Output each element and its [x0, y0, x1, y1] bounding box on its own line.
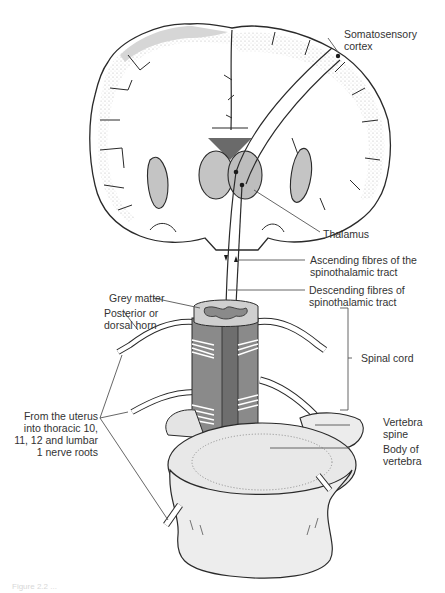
label-body-of-vertebra: Body of vertebra [383, 443, 422, 467]
vertebra-icon [166, 410, 363, 578]
label-ascending-fibres: Ascending fibres of the spinothalamic tr… [310, 254, 417, 278]
label-vertebra-spine: Vertebra spine [383, 416, 423, 440]
label-posterior-horn: Posterior or dorsal horn [104, 307, 158, 331]
label-spinal-cord: Spinal cord [361, 352, 414, 364]
figure-caption: Figure 2.2 ... [12, 582, 57, 591]
label-uterus-nerve-roots: From the uterus into thoracic 10, 11, 12… [0, 410, 98, 458]
label-descending-fibres: Descending fibres of spinothalamic tract [309, 284, 405, 308]
label-thalamus: Thalamus [323, 228, 369, 240]
label-grey-matter: Grey matter [109, 292, 164, 304]
label-somatosensory-cortex: Somatosensory cortex [344, 28, 417, 52]
